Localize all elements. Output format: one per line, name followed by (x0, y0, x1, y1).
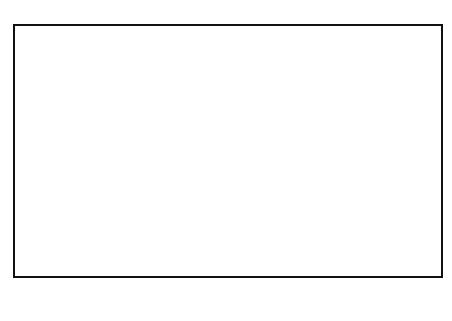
seasonal-chart (0, 0, 452, 321)
chart-frame (14, 25, 442, 277)
